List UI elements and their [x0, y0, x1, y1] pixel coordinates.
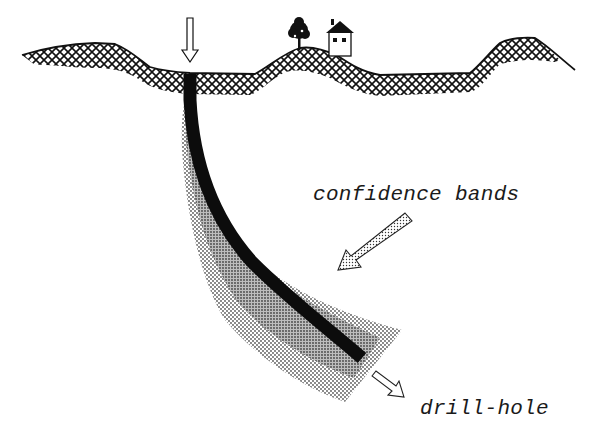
drill-hole-diagram	[0, 0, 589, 431]
terrain-hatch	[22, 38, 560, 96]
confidence-pointer-arrow-icon	[338, 213, 412, 270]
drill-hole-pointer-arrow-icon	[372, 371, 404, 397]
inner-confidence-band	[186, 96, 380, 378]
drill-hole-label: drill-hole	[420, 397, 549, 420]
collar-marker-arrow-icon	[182, 18, 198, 62]
confidence-bands-label: confidence bands	[313, 183, 519, 206]
house-icon	[326, 19, 354, 56]
tree-icon	[288, 17, 310, 50]
